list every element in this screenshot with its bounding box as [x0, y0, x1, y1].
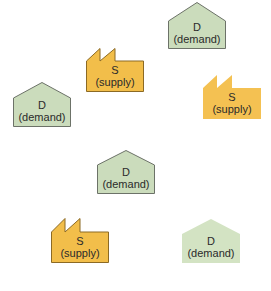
- demand-label: (demand): [168, 33, 226, 46]
- demand-node: D (demand): [168, 2, 226, 49]
- supply-label: (supply): [203, 103, 261, 116]
- supply-node: S (supply): [86, 48, 144, 92]
- demand-node: D (demand): [97, 150, 155, 194]
- demand-node: D (demand): [13, 82, 71, 127]
- supply-node: S (supply): [203, 75, 261, 119]
- demand-label: (demand): [13, 111, 71, 124]
- supply-label: (supply): [86, 76, 144, 89]
- demand-label: (demand): [182, 247, 240, 260]
- supply-node: S (supply): [51, 218, 109, 263]
- demand-node: D (demand): [182, 219, 240, 263]
- supply-label: (supply): [51, 247, 109, 260]
- demand-label: (demand): [97, 178, 155, 191]
